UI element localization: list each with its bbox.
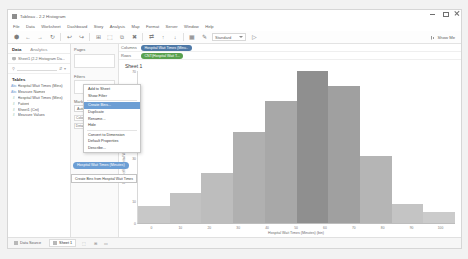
shelf-column: Pages Filters Marks Automatic Color Size…	[71, 44, 119, 237]
hash-icon: #	[12, 114, 16, 118]
maximize-icon[interactable]	[442, 11, 447, 16]
histogram-bar[interactable]	[170, 193, 202, 223]
field-label: Hospital Wait Times (Mins)	[18, 84, 63, 88]
x-axis-title: Hospital Wait Times (Minutes) (bin)	[137, 230, 455, 236]
chart-container: Count of Hospital Wait Times (Minutes) 0…	[119, 71, 461, 237]
new-data-source-icon[interactable]: ⊞	[94, 33, 102, 41]
columns-pill[interactable]: Hospital Wait Times (Minu..	[141, 45, 192, 51]
pages-shelf-label: Pages	[71, 44, 118, 54]
tab-analytics[interactable]: Analytics	[30, 47, 47, 52]
sort-ascending-icon[interactable]: ↑	[159, 33, 167, 41]
field-label: Measure Names	[18, 90, 46, 94]
fit-selector[interactable]: Standard	[212, 33, 246, 41]
ctx-duplicate[interactable]: Duplicate	[84, 109, 140, 116]
ctx-convert-to-dimension[interactable]: Convert to Dimension	[84, 132, 140, 139]
data-source-icon	[12, 57, 16, 61]
tab-sheet-1[interactable]: Sheet 1	[49, 239, 76, 247]
menu-dashboard[interactable]: Dashboard	[67, 24, 87, 29]
field-label: Hospital Wait Times (Mins)	[18, 96, 63, 100]
ctx-create-bins[interactable]: Create Bins...	[84, 102, 140, 109]
plot-column: 0102030405060708090100 Hospital Wait Tim…	[137, 71, 455, 235]
minimize-icon[interactable]	[430, 11, 435, 16]
histogram-bars	[137, 71, 455, 224]
menu-file[interactable]: File	[13, 24, 20, 29]
histogram-bar[interactable]	[360, 156, 392, 223]
tab-data-source[interactable]: Data Source	[11, 240, 44, 246]
new-story-button[interactable]: ▭	[103, 240, 109, 246]
rows-pill[interactable]: CNT(Hospital Wait T...	[141, 53, 183, 59]
menu-format[interactable]: Format	[146, 24, 159, 29]
save-icon[interactable]: ↻	[48, 33, 56, 41]
back-icon[interactable]: ←	[24, 33, 32, 41]
sort-icon[interactable]: ⇵	[59, 66, 62, 71]
menu-map[interactable]: Map	[132, 24, 140, 29]
window-controls	[430, 11, 459, 16]
highlight-icon[interactable]: ✎	[200, 33, 208, 41]
menu-help[interactable]: Help	[205, 24, 213, 29]
ctx-rename[interactable]: Rename...	[84, 115, 140, 122]
drag-pill: Hospital Wait Times (Minutes)	[73, 162, 129, 169]
ctx-show-filter[interactable]: Show Filter	[84, 93, 140, 100]
histogram-bar[interactable]	[423, 212, 455, 223]
menu-story[interactable]: Story	[94, 24, 104, 29]
search-input[interactable]	[17, 66, 57, 71]
redo-icon[interactable]: ↪	[77, 33, 85, 41]
show-me-label: Show Me	[438, 35, 455, 40]
ctx-describe[interactable]: Describe...	[84, 145, 140, 152]
tables-section-title: Tables	[8, 74, 70, 84]
title-bar: Tableau - 2.2 Histogram	[8, 10, 461, 22]
sort-descending-icon[interactable]: ↓	[171, 33, 179, 41]
toolbar-separator	[142, 33, 143, 41]
menu-window[interactable]: Window	[184, 24, 199, 29]
data-source-item[interactable]: Sheet1 (2.2 Histogram Da...	[8, 54, 70, 64]
histogram-bar[interactable]	[265, 101, 297, 223]
new-dashboard-button[interactable]: ⊞	[92, 240, 98, 246]
columns-shelf[interactable]: Columns Hospital Wait Times (Minu..	[119, 44, 461, 52]
group-icon[interactable]: ▦	[188, 33, 196, 41]
application-window: Tableau - 2.2 Histogram File Data Worksh…	[7, 9, 462, 249]
chevron-down-icon	[239, 36, 243, 38]
app-body: Data Analytics Sheet1 (2.2 Histogram Da.…	[8, 44, 461, 237]
histogram-bar[interactable]	[138, 206, 170, 223]
worksheet: Columns Hospital Wait Times (Minu.. Rows…	[119, 44, 461, 237]
menu-worksheet[interactable]: Worksheet	[41, 24, 61, 29]
ctx-hide[interactable]: Hide	[84, 122, 140, 129]
field-measure-values[interactable]: # Measure Values	[8, 112, 70, 118]
histogram-bar[interactable]	[328, 86, 360, 223]
ctx-default-properties[interactable]: Default Properties	[84, 138, 140, 145]
new-worksheet-button[interactable]: ⬚	[81, 240, 87, 246]
duplicate-icon[interactable]: ⧉	[118, 33, 126, 41]
menu-data[interactable]: Data	[26, 24, 35, 29]
forward-icon[interactable]: →	[36, 33, 44, 41]
histogram-bar[interactable]	[297, 71, 329, 223]
close-icon[interactable]	[454, 11, 459, 16]
rows-shelf[interactable]: Rows CNT(Hospital Wait T...	[119, 52, 461, 60]
field-label: Sheet1 (Cnt)	[18, 108, 40, 112]
tab-data[interactable]: Data	[12, 47, 21, 52]
worksheet-title: Sheet 1	[119, 60, 461, 71]
hash-icon: #	[12, 102, 16, 106]
histogram-bar[interactable]	[392, 204, 424, 224]
histogram-bar[interactable]	[201, 173, 233, 223]
data-source-tab-icon	[14, 241, 18, 245]
search-icon[interactable]: ⚲	[12, 66, 15, 71]
undo-icon[interactable]: ↩	[65, 33, 73, 41]
new-worksheet-icon[interactable]: ⬚	[106, 33, 114, 41]
data-pane-search-row: ⚲ ⇵ ▾	[8, 64, 70, 74]
data-pane: Data Analytics Sheet1 (2.2 Histogram Da.…	[8, 44, 71, 237]
hash-icon: #	[12, 108, 16, 112]
menu-analysis[interactable]: Analysis	[110, 24, 125, 29]
histogram-bar[interactable]	[233, 132, 265, 223]
swap-icon[interactable]: ⇄	[147, 33, 155, 41]
clear-sheet-icon[interactable]: ✖	[130, 33, 138, 41]
ctx-add-to-sheet[interactable]: Add to Sheet	[84, 86, 140, 93]
presentation-icon[interactable]: ▷	[250, 33, 258, 41]
tableau-home-icon[interactable]: ⬢	[12, 33, 20, 41]
abc-icon: Abc	[12, 85, 16, 89]
show-me-button[interactable]: Show Me	[431, 35, 457, 40]
menu-server[interactable]: Server	[166, 24, 178, 29]
create-bins-hint: Create Bins from Hospital Wait Times	[71, 174, 137, 183]
toolbar-separator	[183, 33, 184, 41]
more-options-icon[interactable]: ▾	[64, 66, 66, 71]
pages-shelf[interactable]	[74, 54, 115, 68]
